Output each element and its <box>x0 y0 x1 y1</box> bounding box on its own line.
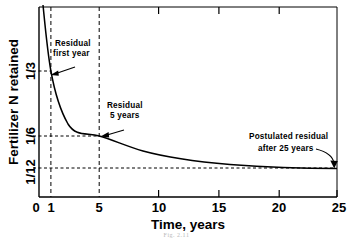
figure-container: Residual first year Residual 5 years Pos… <box>0 0 353 238</box>
x-tick-label-0: 0 <box>32 200 39 215</box>
annotation-five-years-line2: 5 years <box>110 111 140 120</box>
annotation-first-year-line1: Residual <box>55 39 91 48</box>
y-tick-label-one-twelfth: 1/12 <box>23 159 38 184</box>
annotation-first-year-line2: first year <box>53 49 90 58</box>
y-tick-labels: 1/3 1/6 1/12 <box>23 62 38 185</box>
x-tick-label-15: 15 <box>212 200 226 215</box>
x-tick-label-20: 20 <box>272 200 286 215</box>
annotation-twentyfive-years: Postulated residual after 25 years <box>249 132 338 169</box>
annotation-five-years: Residual 5 years <box>101 101 143 138</box>
y-tick-label-one-sixth: 1/6 <box>23 127 38 145</box>
annotation-first-year-arrow-shaft <box>56 67 75 74</box>
x-tick-label-25: 25 <box>332 200 346 215</box>
bottom-tick-marks <box>159 190 337 197</box>
horizontal-reference-lines <box>33 71 333 168</box>
annotation-twentyfive-years-line1: Postulated residual <box>249 132 328 141</box>
x-tick-label-5: 5 <box>95 200 102 215</box>
annotation-twentyfive-years-line2: after 25 years <box>258 144 314 153</box>
x-axis-title: Time, years <box>151 217 225 232</box>
y-axis-title: Fertilizer N retained <box>6 39 21 165</box>
x-tick-label-10: 10 <box>152 200 166 215</box>
x-tick-labels: 0 1 5 10 15 20 25 <box>32 200 346 215</box>
top-tick-marks <box>159 7 280 14</box>
figure-caption: Fig. 2.11 <box>0 232 353 238</box>
x-tick-label-1: 1 <box>47 200 54 215</box>
annotation-five-years-arrow-shaft <box>107 130 124 135</box>
annotation-first-year: Residual first year <box>51 39 91 76</box>
y-tick-label-one-third: 1/3 <box>23 62 38 80</box>
line-chart: Residual first year Residual 5 years Pos… <box>0 0 353 238</box>
annotation-five-years-line1: Residual <box>107 101 143 110</box>
